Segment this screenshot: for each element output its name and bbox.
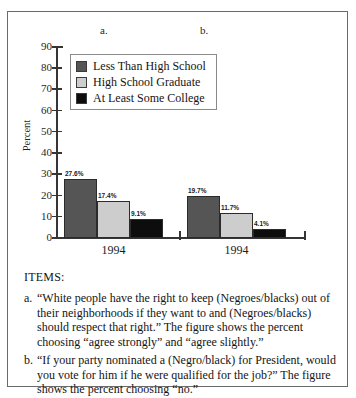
- y-axis-tick-label: 40: [12, 147, 52, 158]
- items-block: ITEMS: a.“White people have the right to…: [24, 270, 344, 398]
- legend-swatch-icon: [76, 61, 87, 72]
- legend-swatch-icon: [76, 77, 87, 88]
- bar-value-label: 4.1%: [254, 220, 269, 227]
- item-entry: b.“If your party nominated a (Negro/blac…: [24, 353, 344, 397]
- legend-label: At Least Some College: [93, 92, 205, 105]
- bar: [187, 196, 220, 238]
- legend-label: Less Than High School: [93, 60, 206, 73]
- y-axis-tick-label: 90: [12, 41, 52, 52]
- bar-chart: Percent 0102030405060708090 27.6%17.4%9.…: [8, 12, 349, 252]
- bar: [97, 201, 130, 238]
- chart-legend: Less Than High SchoolHigh School Graduat…: [70, 54, 217, 110]
- bar-value-label: 17.4%: [98, 192, 116, 199]
- legend-item: At Least Some College: [76, 90, 211, 106]
- item-marker: b.: [24, 353, 37, 397]
- y-axis-tick-label: 20: [12, 190, 52, 201]
- bar-value-label: 11.7%: [221, 204, 239, 211]
- legend-item: High School Graduate: [76, 74, 211, 90]
- bar: [130, 219, 163, 238]
- figure-frame: a. b. Percent 0102030405060708090 27.6%1…: [7, 11, 348, 387]
- items-list: a.“White people have the right to keep (…: [24, 291, 344, 397]
- bar: [253, 229, 286, 238]
- item-text: “If your party nominated a (Negro/black)…: [37, 353, 344, 397]
- bar-value-label: 27.6%: [65, 170, 83, 177]
- y-axis-tick-label: 30: [12, 168, 52, 179]
- y-axis-tick-label: 0: [12, 232, 52, 243]
- x-axis-group-label: 1994: [187, 243, 286, 258]
- item-text: “White people have the right to keep (Ne…: [37, 291, 344, 349]
- x-axis-group-label: 1994: [64, 243, 163, 258]
- y-axis-tick-label: 80: [12, 62, 52, 73]
- y-axis-tick-label: 10: [12, 211, 52, 222]
- legend-item: Less Than High School: [76, 58, 211, 74]
- y-axis-tick-label: 60: [12, 105, 52, 116]
- bar: [220, 213, 253, 238]
- legend-swatch-icon: [76, 93, 87, 104]
- legend-label: High School Graduate: [93, 76, 200, 89]
- item-entry: a.“White people have the right to keep (…: [24, 291, 344, 349]
- y-axis-tick-label: 50: [12, 126, 52, 137]
- bar-value-label: 19.7%: [188, 187, 206, 194]
- items-heading: ITEMS:: [24, 270, 344, 285]
- y-axis-tick-label: 70: [12, 83, 52, 94]
- bar-value-label: 9.1%: [131, 210, 146, 217]
- item-marker: a.: [24, 291, 37, 349]
- bar: [64, 179, 97, 238]
